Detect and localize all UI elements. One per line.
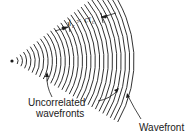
wavefront-arc — [17, 57, 18, 64]
wavefront-arc — [27, 49, 31, 70]
wavefront-label: Wavefront — [139, 122, 184, 133]
point-source — [10, 59, 13, 62]
wavefront-arc — [20, 55, 22, 66]
wavefront-arc — [54, 28, 65, 87]
wavefront-arc — [24, 52, 27, 68]
uncorrelated-label-line2: wavefronts — [36, 108, 84, 119]
uncorrelated-label-line1: Uncorrelated — [28, 97, 85, 108]
wavefront-arc — [57, 26, 69, 90]
wavefront-arc — [37, 41, 44, 77]
wavefront-arc — [34, 44, 40, 75]
